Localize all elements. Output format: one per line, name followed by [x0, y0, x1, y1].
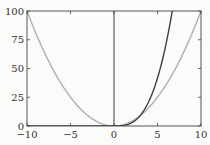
y-tick-label: 100 [5, 6, 24, 17]
x-tick-label: 10 [195, 129, 208, 140]
chart: −10−505100255075100 [0, 0, 210, 145]
y-tick-label: 50 [11, 63, 24, 74]
x-tick-label: −5 [63, 129, 78, 140]
plot-area [27, 0, 201, 126]
x-tick-label: 0 [111, 129, 117, 140]
y-tick-label: 25 [11, 92, 24, 103]
y-tick-label: 0 [18, 121, 24, 132]
x-tick-label: 5 [154, 129, 160, 140]
axis-labels: −10−505100255075100 [5, 6, 207, 141]
y-tick-label: 75 [11, 34, 24, 45]
